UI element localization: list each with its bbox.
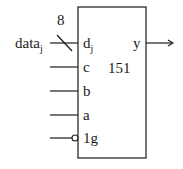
pin-label-a: a	[83, 108, 90, 123]
pin-dj-name: d	[83, 35, 91, 51]
inversion-bubble-icon	[72, 135, 78, 141]
pin-label-b: b	[83, 84, 91, 99]
pin-dj-subscript: j	[91, 43, 94, 54]
external-input-subscript: j	[40, 43, 43, 54]
pin-label-c: c	[83, 60, 90, 75]
external-input-name: data	[15, 35, 40, 51]
bus-width-label: 8	[57, 13, 65, 28]
output-label-y: y	[133, 36, 141, 51]
pin-label-dj: dj	[83, 36, 93, 56]
external-input-label: dataj	[15, 36, 43, 56]
chip-name-label: 151	[108, 61, 131, 76]
pin-label-1g: 1g	[83, 131, 98, 146]
